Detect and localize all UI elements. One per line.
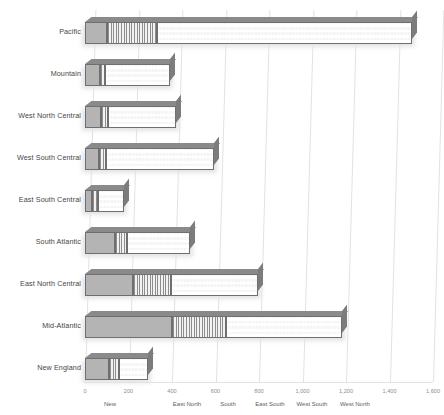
bar-side-face bbox=[214, 137, 219, 165]
bar-segment-solid-gray[interactable] bbox=[85, 148, 99, 170]
bar-segment-solid-gray[interactable] bbox=[85, 22, 107, 44]
chart-legend: NewEast NorthSouthEast SouthWest SouthWe… bbox=[0, 401, 433, 415]
x-axis-tick-labels: 02004006008001,0001,2001,4001,600 bbox=[0, 388, 433, 400]
bar-west-south-central[interactable] bbox=[85, 148, 433, 170]
bar-segment-solid-gray[interactable] bbox=[85, 232, 115, 254]
bar-south-atlantic[interactable] bbox=[85, 232, 433, 254]
bar-side-face bbox=[412, 11, 417, 39]
bar-side-face bbox=[124, 179, 129, 207]
bar-segment-vertical-stripes[interactable] bbox=[109, 358, 119, 380]
legend-entry-west-north[interactable]: West North bbox=[340, 401, 370, 407]
gridline-1600 bbox=[433, 10, 444, 382]
bar-east-south-central[interactable] bbox=[85, 190, 433, 212]
legend-entry-east-north[interactable]: East North bbox=[173, 401, 201, 407]
bar-top-face bbox=[85, 269, 264, 274]
y-axis-label-south-atlantic: South Atlantic bbox=[1, 237, 81, 246]
y-axis-label-east-south-central: East South Central bbox=[1, 195, 81, 204]
y-axis-label-mid-atlantic: Mid-Atlantic bbox=[1, 321, 81, 330]
x-tick-label-1400: 1,400 bbox=[383, 388, 397, 394]
legend-entry-south[interactable]: South bbox=[220, 401, 236, 407]
bar-side-face bbox=[170, 53, 175, 81]
bar-segment-checkerboard[interactable] bbox=[127, 232, 190, 254]
y-axis-label-west-north-central: West North Central bbox=[1, 111, 81, 120]
bar-side-face bbox=[148, 347, 153, 375]
legend-entry-west-south[interactable]: West South bbox=[297, 401, 328, 407]
legend-entry-east-south[interactable]: East South bbox=[255, 401, 284, 407]
bar-top-face bbox=[85, 17, 419, 22]
bar-top-face bbox=[85, 101, 183, 106]
y-axis-label-new-england: New England bbox=[1, 363, 81, 372]
bar-side-face bbox=[176, 95, 181, 123]
bar-segment-checkerboard[interactable] bbox=[226, 316, 341, 338]
legend-entry-new[interactable]: New bbox=[104, 401, 116, 407]
bar-segment-checkerboard[interactable] bbox=[106, 148, 215, 170]
x-tick-label-0: 0 bbox=[83, 388, 86, 394]
bar-top-face bbox=[85, 227, 197, 232]
bar-side-face bbox=[258, 263, 263, 291]
bar-top-face bbox=[85, 143, 221, 148]
bar-segment-vertical-stripes[interactable] bbox=[99, 148, 106, 170]
bar-segment-solid-gray[interactable] bbox=[85, 64, 100, 86]
x-tick-label-200: 200 bbox=[124, 388, 133, 394]
bar-segment-checkerboard[interactable] bbox=[105, 64, 170, 86]
bar-east-north-central[interactable] bbox=[85, 274, 433, 296]
bar-top-face bbox=[85, 311, 348, 316]
x-tick-label-1600: 1,600 bbox=[426, 388, 440, 394]
bar-segment-checkerboard[interactable] bbox=[119, 358, 148, 380]
x-tick-label-1000: 1,000 bbox=[296, 388, 310, 394]
x-tick-label-800: 800 bbox=[254, 388, 263, 394]
bar-side-face bbox=[190, 221, 195, 249]
y-axis-label-mountain: Mountain bbox=[1, 69, 81, 78]
y-axis-label-west-south-central: West South Central bbox=[1, 153, 81, 162]
bar-segment-checkerboard[interactable] bbox=[98, 190, 124, 212]
bar-segment-solid-gray[interactable] bbox=[85, 274, 133, 296]
bar-segment-solid-gray[interactable] bbox=[85, 106, 101, 128]
x-axis-baseline bbox=[85, 382, 433, 383]
bar-segment-vertical-stripes[interactable] bbox=[133, 274, 171, 296]
bar-side-face bbox=[342, 305, 347, 333]
bar-segment-vertical-stripes[interactable] bbox=[115, 232, 127, 254]
bar-mid-atlantic[interactable] bbox=[85, 316, 433, 338]
y-axis-label-pacific: Pacific bbox=[1, 27, 81, 36]
bar-segment-vertical-stripes[interactable] bbox=[172, 316, 226, 338]
x-tick-label-1200: 1,200 bbox=[339, 388, 353, 394]
bar-new-england[interactable] bbox=[85, 358, 433, 380]
bar-pacific[interactable] bbox=[85, 22, 433, 44]
bar-segment-checkerboard[interactable] bbox=[171, 274, 258, 296]
bar-segment-solid-gray[interactable] bbox=[85, 358, 109, 380]
bar-segment-solid-gray[interactable] bbox=[85, 316, 172, 338]
y-axis-label-east-north-central: East North Central bbox=[1, 279, 81, 288]
y-axis-category-labels: PacificMountainWest North CentralWest So… bbox=[0, 10, 81, 388]
x-tick-label-600: 600 bbox=[211, 388, 220, 394]
bar-top-face bbox=[85, 353, 154, 358]
plot-area bbox=[85, 10, 433, 388]
bar-mountain[interactable] bbox=[85, 64, 433, 86]
bar-segment-vertical-stripes[interactable] bbox=[107, 22, 157, 44]
bar-segment-checkerboard[interactable] bbox=[108, 106, 177, 128]
bar-top-face bbox=[85, 59, 176, 64]
bar-segment-vertical-stripes[interactable] bbox=[92, 190, 99, 212]
x-tick-label-400: 400 bbox=[167, 388, 176, 394]
bar-west-north-central[interactable] bbox=[85, 106, 433, 128]
bar-segment-checkerboard[interactable] bbox=[157, 22, 413, 44]
